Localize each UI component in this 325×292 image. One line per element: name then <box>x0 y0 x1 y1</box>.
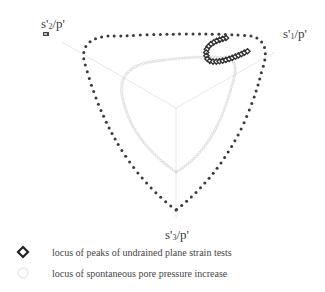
outer-locus-dot <box>220 161 223 164</box>
inner-locus-circle <box>158 60 160 62</box>
inner-locus-circle <box>155 155 157 157</box>
inner-locus-circle <box>134 128 136 130</box>
outer-locus-dot <box>253 95 256 98</box>
inner-locus-circle <box>164 163 166 165</box>
inner-locus-circle <box>229 92 231 94</box>
outer-locus-dot <box>258 77 261 80</box>
outer-locus-dot <box>94 37 97 40</box>
inner-locus-circle <box>170 168 172 170</box>
outer-locus-dot <box>165 33 168 36</box>
outer-locus-dot <box>97 103 100 106</box>
inner-locus-circle <box>212 132 214 134</box>
outer-locus-dot <box>159 33 162 36</box>
outer-locus-dot <box>255 90 258 93</box>
inner-locus-circle <box>162 161 164 163</box>
inner-locus-circle <box>121 90 123 92</box>
inner-locus-circle <box>124 106 126 108</box>
inner-locus-circle <box>143 142 145 144</box>
outer-locus-dot <box>263 46 266 49</box>
outer-locus-dot <box>154 191 157 194</box>
axis-s2 <box>62 42 176 108</box>
outer-locus-dot <box>223 156 226 159</box>
inner-locus-circle <box>149 149 151 151</box>
inner-locus-circle <box>189 57 191 59</box>
spontaneous-pore-pressure-locus <box>121 56 237 173</box>
outer-locus-dot <box>262 65 265 68</box>
inner-locus-circle <box>142 140 144 142</box>
inner-locus-circle <box>234 68 236 70</box>
outer-locus-dot <box>82 57 85 60</box>
legend-label: locus of spontaneous pore pressure incre… <box>52 268 227 279</box>
inner-locus-circle <box>122 98 124 100</box>
outer-locus-dot <box>212 172 215 175</box>
inner-locus-circle <box>121 82 123 84</box>
outer-locus-dot <box>195 191 198 194</box>
outer-locus-dot <box>100 109 103 112</box>
outer-locus-dot <box>227 151 230 154</box>
inner-locus-circle <box>224 107 226 109</box>
inner-locus-circle <box>233 79 235 81</box>
outer-locus-dot <box>139 34 142 37</box>
inner-locus-circle <box>121 95 123 97</box>
inner-locus-circle <box>126 114 128 116</box>
outer-locus-dot <box>180 204 183 207</box>
inner-locus-circle <box>131 123 133 125</box>
inner-locus-circle <box>231 84 233 86</box>
outer-locus-dot <box>111 132 114 135</box>
outer-locus-dot <box>192 33 195 36</box>
inner-locus-circle <box>148 61 150 63</box>
outer-locus-dot <box>204 33 207 36</box>
inner-locus-circle <box>226 101 228 103</box>
inner-locus-circle <box>151 151 153 153</box>
inner-locus-circle <box>137 133 139 135</box>
inner-locus-circle <box>223 109 225 111</box>
inner-locus-circle <box>208 139 210 141</box>
outer-locus-dot <box>257 84 260 87</box>
outer-locus-dot <box>175 208 178 211</box>
inner-locus-circle <box>140 63 142 65</box>
outer-locus-dot <box>198 33 201 36</box>
inner-locus-circle <box>197 56 199 58</box>
outer-locus-dot <box>88 77 91 80</box>
outer-locus-dot <box>150 187 153 190</box>
inner-locus-circle <box>213 130 215 132</box>
outer-locus-dot <box>108 127 111 130</box>
outer-locus-dot <box>208 177 211 180</box>
outer-locus-dot <box>263 58 266 61</box>
inner-locus-circle <box>218 120 220 122</box>
outer-locus-dot <box>132 166 135 169</box>
outer-locus-dot <box>141 177 144 180</box>
outer-locus-dot <box>136 171 139 174</box>
outer-locus-dot <box>255 37 258 40</box>
outer-locus-dot <box>264 52 267 55</box>
outer-locus-dot <box>230 145 233 148</box>
inner-locus-circle <box>145 62 147 64</box>
inner-locus-circle <box>222 112 224 114</box>
inner-locus-circle <box>187 163 189 165</box>
outer-locus-dot <box>245 115 248 118</box>
inner-locus-circle <box>166 164 168 166</box>
outer-locus-dot <box>237 133 240 136</box>
outer-locus-dot <box>230 33 233 36</box>
outer-locus-dot <box>86 70 89 73</box>
outer-locus-dot <box>92 90 95 93</box>
inner-locus-circle <box>193 158 195 160</box>
inner-locus-circle <box>137 64 139 66</box>
inner-locus-circle <box>217 56 219 58</box>
inner-locus-circle <box>166 59 168 61</box>
inner-locus-circle <box>227 98 229 100</box>
inner-locus-circle <box>160 159 162 161</box>
outer-locus-dot <box>95 97 98 100</box>
outer-locus-dot <box>117 143 120 146</box>
outer-locus-dot <box>217 33 220 36</box>
outer-locus-dot <box>89 40 92 43</box>
inner-locus-circle <box>195 156 197 158</box>
inner-locus-circle <box>219 118 221 120</box>
inner-locus-circle <box>169 58 171 60</box>
outer-locus-dot <box>260 71 263 74</box>
inner-locus-circle <box>228 95 230 97</box>
inner-locus-circle <box>140 138 142 140</box>
outer-locus-dot <box>203 182 206 185</box>
inner-locus-circle <box>200 56 202 58</box>
outer-locus-dot <box>250 102 253 105</box>
